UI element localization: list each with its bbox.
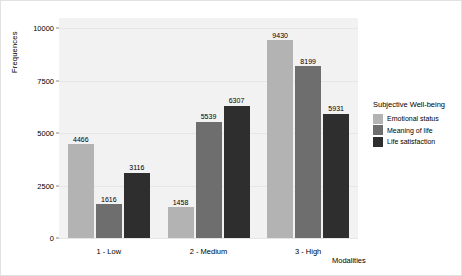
bar: 9430: [267, 40, 293, 238]
x-axis-tick-label: 1 - Low: [97, 247, 122, 256]
y-axis-tick-label: 10000: [8, 24, 59, 33]
bar-value-label: 5931: [328, 105, 344, 112]
chart-legend: Subjective Well-being Emotional statusMe…: [373, 100, 459, 148]
y-axis-tick-label: 0: [8, 234, 59, 243]
bar-value-label: 1616: [101, 196, 117, 203]
legend-label: Emotional status: [387, 115, 439, 122]
legend-item: Emotional status: [373, 113, 459, 124]
bar-value-label: 5539: [201, 113, 217, 120]
bar-value-label: 9430: [272, 32, 288, 39]
y-axis-tick-label: 5000: [8, 129, 59, 138]
legend-title: Subjective Well-being: [373, 100, 459, 109]
legend-swatch: [373, 137, 383, 147]
bar: 8199: [295, 66, 321, 238]
bar: 5931: [323, 114, 349, 238]
legend-swatch: [373, 114, 383, 124]
legend-label: Life satisfaction: [387, 138, 435, 145]
x-axis-tick-label: 3 - High: [295, 247, 321, 256]
bar: 6307: [224, 106, 250, 238]
gridline: [59, 28, 358, 29]
legend-swatch: [373, 125, 383, 135]
bar: 4466: [68, 144, 94, 238]
legend-items: Emotional statusMeaning of lifeLife sati…: [373, 113, 459, 147]
bar-value-label: 6307: [229, 97, 245, 104]
bar: 1616: [96, 204, 122, 238]
y-axis-tick-label: 2500: [8, 181, 59, 190]
gridline: [59, 238, 358, 239]
legend-label: Meaning of life: [387, 127, 433, 134]
legend-item: Life satisfaction: [373, 136, 459, 147]
plot-area: 0250050007500100004466161631161 - Low145…: [59, 18, 358, 238]
bar: 5539: [196, 122, 222, 238]
y-axis-tick-label: 7500: [8, 76, 59, 85]
bar: 3116: [124, 173, 150, 238]
bar-chart-figure: Frequences Modalities 025005000750010000…: [0, 0, 462, 276]
bar-value-label: 8199: [300, 58, 316, 65]
bar: 1458: [168, 207, 194, 238]
x-axis-title: Modalities: [332, 256, 366, 265]
x-axis-tick-label: 2 - Medium: [190, 247, 228, 256]
bar-value-label: 1458: [173, 199, 189, 206]
legend-item: Meaning of life: [373, 125, 459, 136]
bar-value-label: 4466: [73, 136, 89, 143]
bar-value-label: 3116: [129, 164, 144, 171]
